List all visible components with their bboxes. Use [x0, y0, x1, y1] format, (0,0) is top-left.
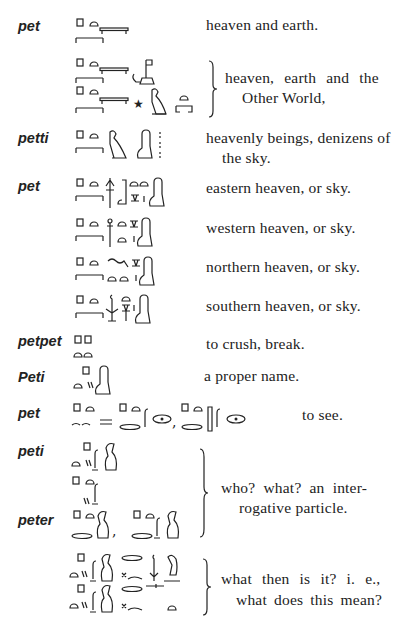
hieroglyph-group-northern — [76, 257, 176, 297]
hieroglyph-group-western — [76, 218, 176, 258]
lemma-peti: peti — [18, 443, 44, 459]
interrogative-hieroglyph-icon — [72, 442, 142, 476]
proper-name-hieroglyph-icon — [74, 366, 124, 398]
sky-earth-hieroglyph-icon — [76, 58, 176, 88]
brace-right — [198, 448, 210, 544]
definition-interrogative-1: who? what? an inter- — [221, 478, 367, 497]
definition-to-see: to see. — [302, 405, 343, 424]
to-see-hieroglyph-icon: , — [72, 403, 302, 439]
definition-heavenly-beings-1: heavenly beings, denizens of — [206, 128, 391, 147]
definition-interrogative-2: rogative particle. — [239, 498, 348, 517]
lemma-Peti: Peti — [18, 369, 45, 385]
northern-heaven-hieroglyph-icon — [76, 257, 176, 293]
hieroglyph-group-Peti — [74, 366, 124, 402]
svg-text:★: ★ — [133, 97, 144, 111]
hieroglyph-group-petpet — [74, 335, 104, 365]
lemma-pet-3: pet — [18, 405, 40, 421]
southern-heaven-hieroglyph-icon — [76, 295, 176, 331]
what-then-hieroglyph-icon — [70, 553, 200, 587]
hieroglyph-group-to-see: , — [72, 403, 302, 443]
lemma-petpet: petpet — [18, 333, 62, 349]
definition-western-heaven: western heaven, or sky. — [206, 218, 356, 237]
hieroglyph-group-petti — [76, 130, 166, 170]
what-then-variant-hieroglyph-icon — [70, 584, 200, 618]
definition-to-crush: to crush, break. — [206, 334, 305, 353]
hieroglyph-group-what-then-2 — [70, 584, 200, 622]
hieroglyph-group-peti-1 — [72, 442, 142, 480]
definition-heaven-and-earth: heaven and earth. — [206, 15, 318, 34]
eastern-heaven-hieroglyph-icon — [76, 178, 176, 214]
sky-sign-icon — [76, 18, 146, 48]
western-heaven-hieroglyph-icon — [76, 218, 176, 254]
definition-what-then-1: what then is it? i. e., — [221, 569, 380, 588]
heavenly-beings-hieroglyph-icon — [76, 130, 166, 166]
lemma-petti: petti — [18, 130, 49, 146]
brace-right — [207, 60, 219, 122]
brace-right — [201, 558, 213, 620]
definition-heaven-earth-other-world-2: Other World, — [242, 88, 326, 107]
hieroglyph-group-peti-2 — [72, 476, 122, 514]
sky-earth-netherworld-hieroglyph-icon: ★ — [76, 86, 206, 118]
definition-what-then-2: what does this mean? — [236, 590, 382, 609]
definition-what-then-line1: what then is it? i. e., — [221, 570, 380, 587]
definition-eastern-heaven: eastern heaven, or sky. — [206, 178, 351, 197]
lemma-pet-1: pet — [18, 18, 40, 34]
definition-northern-heaven: northern heaven, or sky. — [206, 257, 360, 276]
definition-proper-name: a proper name. — [204, 366, 299, 385]
lemma-pet-2: pet — [18, 178, 40, 194]
definition-southern-heaven: southern heaven, or sky. — [206, 296, 361, 315]
svg-text:,: , — [112, 523, 116, 539]
hieroglyph-group-eastern — [76, 178, 176, 218]
interrogative-peter-hieroglyph-icon: , — [72, 510, 202, 544]
hieroglyph-group-peter: , — [72, 510, 202, 548]
crush-hieroglyph-icon — [74, 335, 104, 361]
interrogative-variant-hieroglyph-icon — [72, 476, 122, 510]
lemma-peter: peter — [18, 512, 53, 528]
hieroglyph-group-heaven-earth-2: ★ — [76, 86, 206, 122]
hieroglyph-group-southern — [76, 295, 176, 335]
svg-text:,: , — [172, 414, 176, 430]
hieroglyph-group-heaven-and-earth — [76, 18, 146, 52]
definition-heavenly-beings-2: the sky. — [222, 148, 271, 167]
definition-heaven-earth-other-world-1: heaven, earth and the — [225, 68, 379, 87]
